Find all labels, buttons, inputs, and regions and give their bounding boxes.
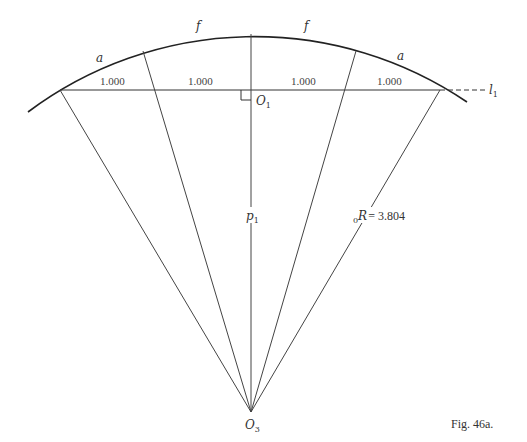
segment-label-2: 1.000 (188, 75, 213, 87)
radius-line-1 (60, 90, 251, 412)
right-angle-marker (241, 90, 251, 100)
segment-label-4: 1.000 (377, 75, 402, 87)
figure-caption: Fig. 46a. (451, 417, 493, 431)
arc-construction-diagram: a f f a 1.000 1.000 1.000 1.000 l1 O1 p1… (0, 0, 527, 442)
line-label-l1: l1 (489, 83, 498, 99)
segment-label-3: 1.000 (291, 75, 316, 87)
radius-label: 0R= 3.804 (353, 209, 405, 225)
point-label-o3: O3 (245, 418, 260, 434)
arc-label-a-right: a (397, 49, 404, 63)
radius-line-2 (143, 51, 251, 412)
arc-label-f-right: f (303, 19, 311, 33)
segment-label-1: 1.000 (100, 75, 125, 87)
radius-line-5 (251, 90, 440, 412)
arc-label-f-left: f (195, 19, 203, 33)
arc-label-a-left: a (96, 51, 103, 65)
point-label-o1: O1 (256, 94, 271, 110)
